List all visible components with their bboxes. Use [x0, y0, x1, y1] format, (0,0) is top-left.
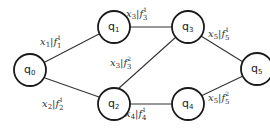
node-q5: q5 — [241, 53, 270, 85]
edge-label-q4-q5: x5|f25 — [208, 90, 229, 106]
node-q2: q2 — [98, 88, 130, 120]
edge-label-q0-q2: x2|f12 — [42, 96, 63, 112]
edge-label-q1-q3: x3|f13 — [126, 6, 147, 22]
edge-label-q3-q5: x5|f15 — [208, 26, 229, 42]
node-q4: q4 — [172, 88, 204, 120]
node-q3: q3 — [172, 11, 204, 43]
node-q0: q0 — [14, 54, 46, 86]
node-q1: q1 — [98, 11, 130, 43]
state-diagram: x1|f11 x2|f12 x3|f13 x3|f23 x4|f14 x5|f1… — [0, 0, 270, 130]
edge-q3-q5 — [201, 36, 243, 62]
edge-label-q2-q3: x3|f23 — [110, 55, 131, 71]
edge-q0-q2 — [45, 78, 99, 97]
edge-label-q0-q1: x1|f11 — [40, 34, 61, 50]
